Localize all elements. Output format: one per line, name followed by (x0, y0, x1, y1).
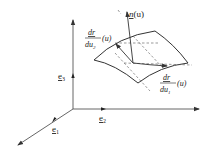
svg-text:du1: du1 (160, 85, 171, 95)
tangent-u2-label: dr du2 (u) (85, 28, 112, 50)
e3-unit-arrow-icon (71, 73, 74, 78)
e2-label: e2 (99, 113, 106, 124)
e3-label: e3 (58, 71, 65, 82)
svg-text:du2: du2 (85, 40, 96, 50)
e1-axis (18, 109, 73, 145)
e1-label: e1 (52, 124, 59, 135)
tangent-vector-u1 (133, 63, 167, 66)
normal-label: n(u) (129, 9, 144, 19)
svg-text:dr: dr (163, 73, 171, 82)
e2-unit-arrow-icon (101, 107, 106, 110)
surface-diagram: e3 e2 e1 n(u) dr du2 (u) dr du1 (0, 0, 206, 155)
tangent-vector-u2 (116, 44, 133, 63)
svg-text:(u): (u) (177, 79, 187, 88)
svg-text:(u): (u) (102, 34, 112, 43)
tangent-u1-label: dr du1 (u) (160, 73, 187, 95)
svg-text:dr: dr (88, 28, 96, 37)
